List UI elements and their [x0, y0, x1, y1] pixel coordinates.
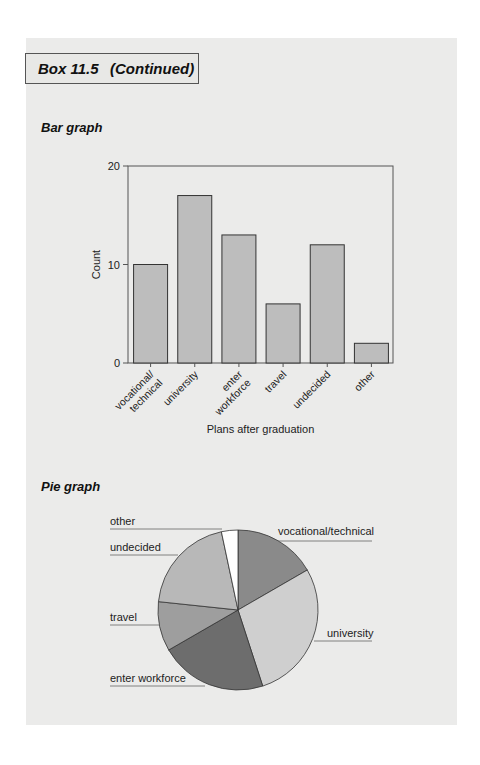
pie-label: travel	[110, 611, 137, 623]
pie-label: other	[110, 515, 135, 527]
pie-label: vocational/technical	[278, 525, 374, 537]
pie-label: enter workforce	[110, 672, 186, 684]
pie-label: university	[327, 627, 374, 639]
pie-chart: vocational/technicaluniversityenter work…	[0, 0, 480, 765]
pie-label: undecided	[110, 541, 161, 553]
